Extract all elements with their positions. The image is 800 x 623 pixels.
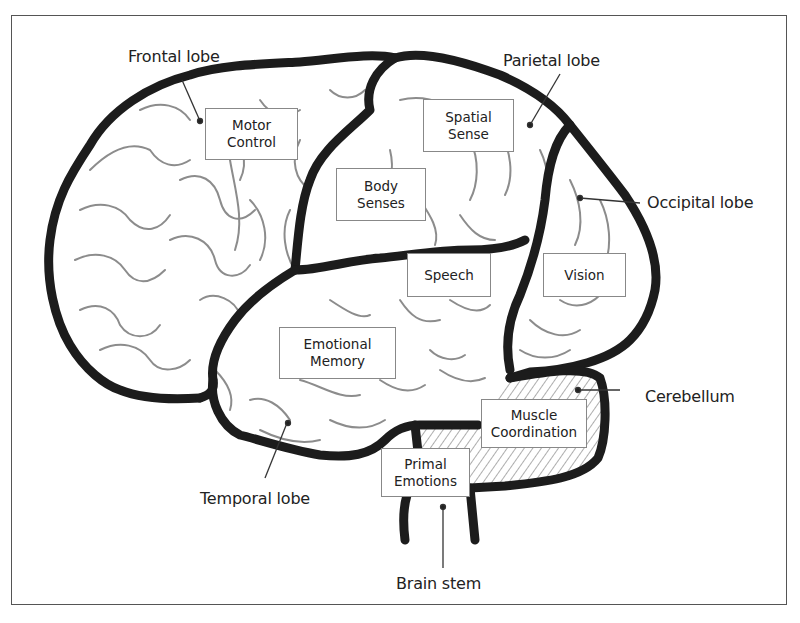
brain-illustration (0, 0, 800, 623)
label-brain-stem: Brain stem (396, 574, 481, 593)
box-motor-control-line1: Motor (232, 117, 271, 134)
box-muscle-coordination-line2: Coordination (491, 424, 577, 441)
label-occipital-lobe: Occipital lobe (647, 193, 753, 212)
box-body-senses: Body Senses (336, 168, 426, 221)
box-speech: Speech (407, 253, 491, 297)
label-cerebellum: Cerebellum (645, 387, 735, 406)
box-spatial-sense-line1: Spatial (445, 109, 491, 126)
box-motor-control-line2: Control (227, 134, 276, 151)
box-emotional-memory: Emotional Memory (279, 327, 396, 379)
box-primal-emotions-line2: Emotions (394, 473, 457, 490)
box-vision-line1: Vision (564, 267, 604, 284)
box-muscle-coordination-line1: Muscle (511, 407, 558, 424)
box-spatial-sense: Spatial Sense (423, 99, 514, 152)
box-primal-emotions-line1: Primal (404, 456, 446, 473)
box-motor-control: Motor Control (205, 108, 298, 160)
box-vision: Vision (543, 253, 626, 297)
label-frontal-lobe: Frontal lobe (128, 47, 220, 66)
box-spatial-sense-line2: Sense (448, 126, 489, 143)
box-primal-emotions: Primal Emotions (381, 448, 470, 497)
box-body-senses-line1: Body (364, 178, 398, 195)
box-muscle-coordination: Muscle Coordination (481, 399, 587, 448)
box-speech-line1: Speech (424, 267, 474, 284)
label-parietal-lobe: Parietal lobe (503, 51, 600, 70)
box-emotional-memory-line2: Memory (310, 353, 365, 370)
label-temporal-lobe: Temporal lobe (200, 489, 310, 508)
box-body-senses-line2: Senses (357, 195, 405, 212)
box-emotional-memory-line1: Emotional (304, 336, 372, 353)
